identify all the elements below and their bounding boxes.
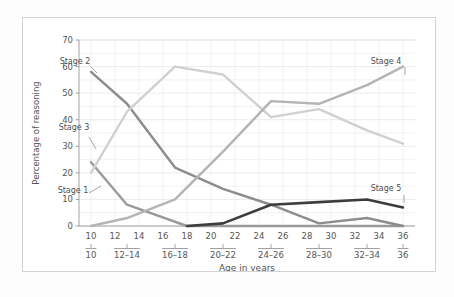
chart-frame: 010203040506070Percentage of reasoning10… — [22, 17, 436, 272]
y-tick-label: 0 — [68, 221, 73, 231]
leader-line-stage-3 — [89, 137, 96, 149]
x-group-label: 10 — [86, 250, 97, 260]
x-tick-label: 10 — [86, 231, 97, 241]
x-tick-label: 22 — [230, 231, 241, 241]
series-label-stage-4: Stage 4 — [371, 57, 402, 66]
x-tick-label: 16 — [158, 231, 169, 241]
series-label-stage-5: Stage 5 — [371, 184, 402, 193]
x-tick-label: 36 — [398, 231, 409, 241]
x-group-label: 16–18 — [162, 250, 188, 260]
series-label-stage-1: Stage 1 — [58, 186, 89, 195]
y-tick-label: 30 — [62, 141, 73, 151]
y-tick-label: 20 — [62, 168, 73, 178]
x-tick-label: 30 — [326, 231, 337, 241]
x-group-label: 32–34 — [354, 250, 380, 260]
x-tick-label: 24 — [254, 231, 265, 241]
x-axis-title: Age in years — [219, 263, 275, 271]
x-tick-label: 14 — [134, 231, 145, 241]
y-tick-label: 10 — [62, 194, 73, 204]
y-tick-label: 70 — [62, 35, 73, 45]
x-group-label: 24–26 — [258, 250, 284, 260]
series-label-stage-2: Stage 2 — [60, 57, 91, 66]
x-group-label: 36 — [398, 250, 409, 260]
line-chart: 010203040506070Percentage of reasoning10… — [23, 18, 435, 271]
x-group-label: 12–14 — [114, 250, 140, 260]
x-tick-label: 26 — [278, 231, 289, 241]
x-tick-label: 34 — [374, 231, 385, 241]
x-tick-label: 20 — [206, 231, 217, 241]
x-tick-label: 18 — [182, 231, 193, 241]
y-axis-title: Percentage of reasoning — [31, 81, 41, 184]
x-tick-label: 32 — [350, 231, 361, 241]
x-group-label: 28–30 — [306, 250, 332, 260]
x-tick-label: 28 — [302, 231, 313, 241]
figure-container: 010203040506070Percentage of reasoning10… — [0, 0, 454, 297]
y-tick-label: 50 — [62, 88, 73, 98]
x-tick-label: 12 — [110, 231, 121, 241]
series-label-stage-3: Stage 3 — [59, 123, 90, 132]
x-group-label: 20–22 — [210, 250, 236, 260]
series-line-stage-1 — [91, 162, 403, 226]
